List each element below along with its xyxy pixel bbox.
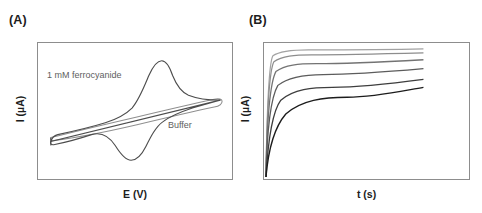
panel-a-y-axis-label: I (µA) [14, 83, 26, 135]
chronoamperometry-curve-2 [266, 53, 423, 177]
chronoamperometry-curve-6 [266, 87, 423, 177]
buffer-curve [50, 99, 222, 141]
chronoamperometry-curve-1 [266, 49, 423, 177]
panel-a: (A) 1 mM ferrocyanide Buffer E (V) I (µA… [0, 0, 241, 213]
panel-a-label: (A) [9, 13, 27, 27]
chronoamperometry-curve-5 [266, 79, 423, 177]
panel-a-x-axis-label: E (V) [37, 188, 233, 200]
chronoamperometry-curve-3 [266, 60, 423, 177]
chronoamperometry-svg [264, 43, 469, 179]
panel-b: (B) 100 s [241, 0, 482, 213]
panel-b-plot-area [263, 42, 470, 180]
panel-b-label: (B) [249, 13, 267, 27]
cyclic-voltammogram-svg [38, 43, 232, 179]
chronoamperometry-curve-4 [266, 69, 423, 177]
buffer-label: Buffer [168, 120, 192, 130]
panel-a-plot-area [37, 42, 233, 180]
panel-b-y-axis-label: I (µA) [239, 83, 251, 135]
panel-b-x-axis-label: t (s) [263, 188, 470, 200]
ferrocyanide-label: 1 mM ferrocyanide [47, 70, 122, 80]
figure-container: (A) 1 mM ferrocyanide Buffer E (V) I (µA… [0, 0, 482, 213]
